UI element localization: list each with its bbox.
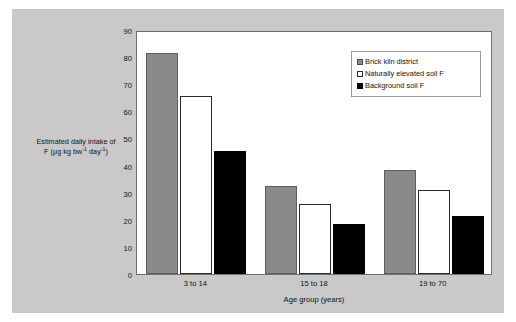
legend-label: Brick kiln district — [365, 57, 418, 66]
legend-label: Background soil F — [365, 81, 424, 90]
y-tick-label: 70 — [108, 81, 132, 90]
bar-3-to-14-series-2 — [214, 151, 246, 274]
y-tick-label: 20 — [108, 216, 132, 225]
y-axis-ticks: 0102030405060708090 — [108, 31, 132, 275]
chart-figure: Estimated daily intake of F (µg kg bw-1 … — [0, 0, 516, 322]
legend-swatch-icon — [357, 83, 363, 89]
bar-15-to-18-series-1 — [299, 204, 331, 274]
x-tick-label: 3 to 14 — [155, 279, 235, 288]
x-axis-title: Age group (years) — [136, 295, 492, 304]
legend-item: Brick kiln district — [357, 56, 475, 67]
bar-19-to-70-series-1 — [418, 190, 450, 274]
chart-panel: Estimated daily intake of F (µg kg bw-1 … — [12, 9, 504, 313]
x-tick-label: 19 to 70 — [393, 279, 473, 288]
y-tick-label: 80 — [108, 54, 132, 63]
legend-item: Naturally elevated soil F — [357, 68, 475, 79]
y-tick-label: 30 — [108, 189, 132, 198]
y-tick-label: 60 — [108, 108, 132, 117]
y-tick-label: 10 — [108, 243, 132, 252]
bar-15-to-18-series-2 — [333, 224, 365, 274]
legend-swatch-icon — [357, 71, 363, 77]
y-tick-label: 90 — [108, 27, 132, 36]
plot-area: Brick kiln districtNaturally elevated so… — [136, 31, 492, 275]
legend-swatch-icon — [357, 59, 363, 65]
y-tick-label: 40 — [108, 162, 132, 171]
x-tick-label: 15 to 18 — [274, 279, 354, 288]
y-axis-title-unit-mid: day — [87, 147, 101, 156]
y-tick-label: 0 — [108, 271, 132, 280]
bar-3-to-14-series-1 — [180, 96, 212, 274]
legend-item: Background soil F — [357, 80, 475, 91]
chart-legend: Brick kiln districtNaturally elevated so… — [351, 51, 481, 97]
legend-label: Naturally elevated soil F — [365, 69, 444, 78]
bar-3-to-14-series-0 — [146, 53, 178, 274]
bar-19-to-70-series-2 — [452, 216, 484, 274]
y-axis-title-unit-pre: F (µg kg bw — [44, 147, 82, 156]
bar-15-to-18-series-0 — [265, 186, 297, 274]
y-tick-label: 50 — [108, 135, 132, 144]
bar-19-to-70-series-0 — [384, 170, 416, 274]
